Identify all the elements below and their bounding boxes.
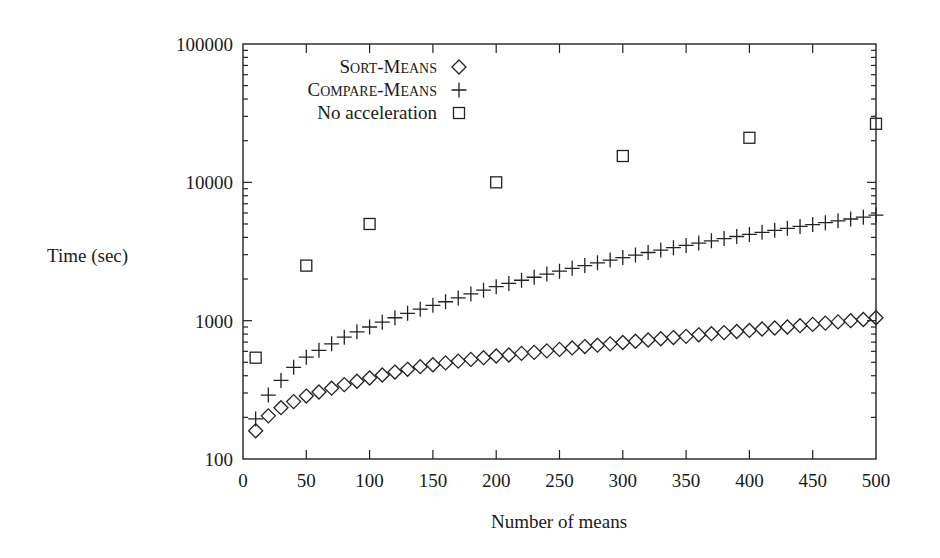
diamond-marker bbox=[299, 389, 313, 403]
y-axis: 100100010000100000 bbox=[176, 34, 876, 470]
diamond-marker bbox=[641, 333, 655, 347]
plus-marker bbox=[565, 261, 580, 276]
diamond-marker bbox=[413, 360, 427, 374]
plus-marker bbox=[666, 240, 681, 255]
diamond-marker bbox=[477, 351, 491, 365]
plus-marker bbox=[489, 279, 504, 294]
plus-marker bbox=[704, 233, 719, 248]
diamond-marker bbox=[768, 321, 782, 335]
square-marker bbox=[617, 151, 628, 162]
square-marker bbox=[301, 260, 312, 271]
diamond-marker bbox=[274, 401, 288, 415]
diamond-marker bbox=[451, 354, 465, 368]
diamond-marker bbox=[439, 356, 453, 370]
x-tick-label: 50 bbox=[297, 470, 316, 491]
series-no-acceleration bbox=[250, 118, 881, 363]
x-tick-label: 450 bbox=[798, 470, 827, 491]
plus-marker bbox=[299, 350, 314, 365]
y-tick-label: 10000 bbox=[186, 172, 234, 193]
plus-marker bbox=[539, 267, 554, 282]
diamond-marker bbox=[793, 319, 807, 333]
plus-marker bbox=[286, 360, 301, 375]
x-tick-label: 300 bbox=[609, 470, 638, 491]
plus-marker bbox=[413, 302, 428, 317]
diamond-marker bbox=[261, 409, 275, 423]
x-tick-label: 400 bbox=[735, 470, 764, 491]
diamond-marker bbox=[287, 395, 301, 409]
diamond-marker bbox=[856, 312, 870, 326]
diamond-marker bbox=[704, 327, 718, 341]
y-axis-label: Time (sec) bbox=[47, 245, 128, 267]
legend-label: No acceleration bbox=[317, 102, 437, 123]
plus-marker bbox=[691, 236, 706, 251]
x-tick-label: 200 bbox=[482, 470, 511, 491]
diamond-marker bbox=[464, 352, 478, 366]
diamond-marker bbox=[540, 344, 554, 358]
data-series bbox=[248, 118, 883, 437]
plus-marker bbox=[463, 286, 478, 301]
diamond-marker bbox=[363, 371, 377, 385]
diamond-marker bbox=[350, 374, 364, 388]
series-compare-means bbox=[248, 208, 883, 427]
diamond-marker bbox=[616, 336, 630, 350]
plus-marker bbox=[780, 221, 795, 236]
chart: 050100150200250300350400450500 100100010… bbox=[0, 0, 940, 558]
plus-marker bbox=[248, 411, 263, 426]
square-marker bbox=[250, 352, 261, 363]
plus-marker bbox=[273, 373, 288, 388]
plus-marker bbox=[767, 223, 782, 238]
square-marker bbox=[364, 218, 375, 229]
plus-marker bbox=[755, 225, 770, 240]
y-tick-label: 1000 bbox=[195, 311, 233, 332]
plus-marker bbox=[628, 248, 643, 263]
diamond-marker bbox=[730, 325, 744, 339]
diamond-marker bbox=[578, 340, 592, 354]
diamond-marker bbox=[654, 332, 668, 346]
plus-marker bbox=[717, 231, 732, 246]
diamond-marker bbox=[755, 322, 769, 336]
x-tick-label: 350 bbox=[672, 470, 701, 491]
diamond-marker bbox=[590, 338, 604, 352]
plus-marker bbox=[311, 343, 326, 358]
diamond-marker bbox=[679, 329, 693, 343]
diamond-marker bbox=[818, 316, 832, 330]
plus-marker bbox=[387, 310, 402, 325]
diamond-marker bbox=[489, 349, 503, 363]
legend-square-icon bbox=[454, 108, 465, 119]
diamond-marker bbox=[325, 381, 339, 395]
plus-marker bbox=[615, 250, 630, 265]
plus-marker bbox=[552, 264, 567, 279]
diamond-marker bbox=[831, 315, 845, 329]
diamond-marker bbox=[553, 342, 567, 356]
diamond-marker bbox=[337, 378, 351, 392]
diamond-marker bbox=[502, 348, 516, 362]
diamond-marker bbox=[426, 358, 440, 372]
plus-marker bbox=[641, 245, 656, 260]
plus-marker bbox=[856, 210, 871, 225]
diamond-marker bbox=[312, 385, 326, 399]
diamond-marker bbox=[717, 326, 731, 340]
plus-marker bbox=[818, 215, 833, 230]
x-tick-label: 500 bbox=[862, 470, 891, 491]
diamond-marker bbox=[565, 341, 579, 355]
diamond-marker bbox=[401, 362, 415, 376]
plus-marker bbox=[653, 243, 668, 258]
plus-marker bbox=[742, 227, 757, 242]
plus-marker bbox=[843, 212, 858, 227]
diamond-marker bbox=[628, 334, 642, 348]
plus-marker bbox=[603, 253, 618, 268]
x-tick-label: 100 bbox=[355, 470, 384, 491]
diamond-marker bbox=[844, 314, 858, 328]
diamond-marker bbox=[527, 345, 541, 359]
plus-marker bbox=[451, 290, 466, 305]
square-marker bbox=[744, 132, 755, 143]
plus-marker bbox=[805, 217, 820, 232]
legend-label: COMPARE-MEANS bbox=[307, 79, 437, 100]
legend: SORT-MEANSCOMPARE-MEANSNo acceleration bbox=[307, 56, 466, 123]
plus-marker bbox=[527, 270, 542, 285]
plus-marker bbox=[869, 208, 884, 223]
plus-marker bbox=[425, 298, 440, 313]
plus-marker bbox=[476, 283, 491, 298]
plus-marker bbox=[514, 273, 529, 288]
plus-marker bbox=[438, 294, 453, 309]
